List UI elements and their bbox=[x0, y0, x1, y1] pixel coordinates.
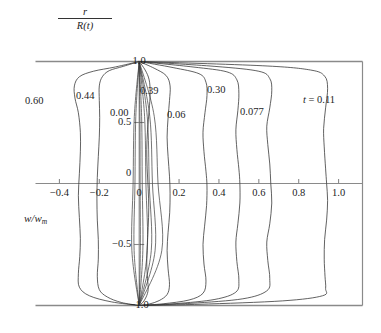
y-tick-label-neg0_5: −0.5 bbox=[112, 239, 131, 250]
curve-label-variable: t bbox=[303, 94, 306, 105]
x-axis-label-subscript: m bbox=[42, 217, 47, 226]
curve-label-0.06: 0.06 bbox=[167, 110, 185, 121]
y-tick-label-neg1: −1.0 bbox=[130, 300, 149, 311]
y-axis-label-denominator: R(t) bbox=[58, 19, 112, 31]
y-tick-label-1: 1.0 bbox=[133, 56, 146, 67]
curve-label-0.39: 0.39 bbox=[140, 86, 158, 97]
x-tick-label-0_4: 0.4 bbox=[212, 188, 225, 199]
curve-label-0.60: 0.60 bbox=[25, 96, 43, 107]
y-axis-label-numerator: r bbox=[58, 6, 112, 19]
y-tick-label-0: 0 bbox=[126, 168, 131, 179]
x-axis-label: w/wm bbox=[24, 213, 47, 226]
x-tick-label-0_2: 0.2 bbox=[172, 188, 185, 199]
y-axis-label: r R(t) bbox=[58, 6, 112, 32]
x-tick-label-neg0_2: −0.2 bbox=[90, 188, 109, 199]
x-tick-label-neg0_4: −0.4 bbox=[50, 188, 69, 199]
x-tick-label-0_8: 0.8 bbox=[292, 188, 305, 199]
x-tick-label-0: 0 bbox=[137, 188, 142, 199]
x-tick-label-1: 1.0 bbox=[332, 188, 345, 199]
curve-label-0.30: 0.30 bbox=[207, 85, 225, 96]
x-tick-label-0_6: 0.6 bbox=[252, 188, 265, 199]
curve-label-t---0.11: t = 0.11 bbox=[303, 95, 335, 106]
x-axis-label-main: w/w bbox=[24, 212, 42, 224]
plot-canvas bbox=[0, 0, 381, 333]
figure-container: r R(t) w/wm −0.4−0.200.20.40.60.81.01.00… bbox=[0, 0, 381, 333]
curve-label-0.44: 0.44 bbox=[76, 91, 94, 102]
curve-label-0.077: 0.077 bbox=[240, 107, 264, 118]
curve-label-0.00: 0.00 bbox=[110, 108, 128, 119]
